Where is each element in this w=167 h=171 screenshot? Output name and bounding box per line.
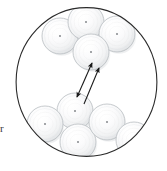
sphere-bottom-right-center-dot: [106, 121, 108, 123]
sphere-packing-diagram: [0, 0, 167, 171]
sphere-top-left-center-dot: [59, 35, 61, 37]
sphere-middle-probe-center-dot: [90, 51, 92, 53]
sphere-bottom-left-center-dot: [44, 123, 46, 125]
sphere-top-right-center-dot: [116, 33, 118, 35]
sphere-top-center-center-dot: [85, 21, 87, 23]
left-edge-tick: r: [0, 123, 4, 134]
sphere-bottom-far-right-center-dot: [133, 139, 135, 141]
figure-container: r: [0, 0, 167, 171]
sphere-bottom-far-right-highlight: [117, 123, 150, 156]
sphere-bottom-center-center-dot: [77, 141, 79, 143]
sphere-bottom-far-right: [116, 122, 154, 160]
sphere-lower-probe-center-dot: [74, 110, 76, 112]
